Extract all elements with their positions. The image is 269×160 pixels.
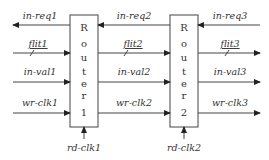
svg-text:o: o <box>181 38 187 49</box>
svg-text:o: o <box>81 38 87 49</box>
svg-text:2: 2 <box>181 107 187 118</box>
in-val2-label: in-val2 <box>118 66 150 77</box>
in-val1-label: in-val1 <box>24 66 56 77</box>
in-val3-label: in-val3 <box>214 66 246 77</box>
wr-clk1-label: wr-clk1 <box>22 97 58 108</box>
in-req2-label: in-req2 <box>117 10 152 21</box>
rd-clk2-label: rd-clk2 <box>167 142 201 153</box>
in-req1-label: in-req1 <box>23 10 58 21</box>
wr-clk3-label: wr-clk3 <box>212 97 248 108</box>
svg-text:e: e <box>81 78 87 89</box>
svg-text:t: t <box>182 66 186 77</box>
flit3-label: flit3 <box>219 38 239 49</box>
rd-clk1-label: rd-clk1 <box>67 142 101 153</box>
svg-text:u: u <box>81 52 88 63</box>
svg-text:r: r <box>182 90 187 101</box>
svg-text:R: R <box>80 22 88 33</box>
svg-text:u: u <box>181 52 188 63</box>
wr-clk2-label: wr-clk2 <box>116 97 152 108</box>
flit1-label: flit1 <box>27 38 47 49</box>
svg-text:r: r <box>82 90 87 101</box>
flit2-label: flit2 <box>122 38 142 49</box>
svg-text:t: t <box>82 66 86 77</box>
in-req3-label: in-req3 <box>213 10 248 21</box>
svg-text:R: R <box>180 22 188 33</box>
svg-text:e: e <box>181 78 187 89</box>
svg-text:1: 1 <box>81 107 87 118</box>
router-diagram: R o u t e r 1 R o u t e r 2 in-req1 flit… <box>0 0 269 160</box>
